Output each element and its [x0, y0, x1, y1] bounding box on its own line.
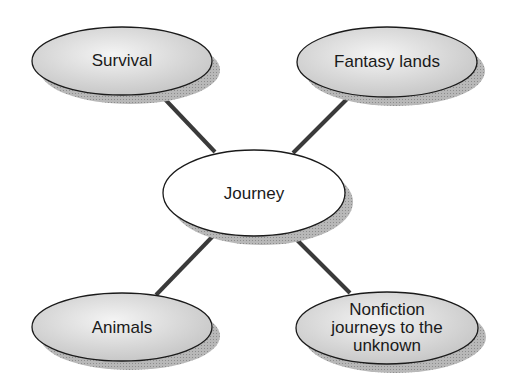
nonfiction-line-2: journeys to the [331, 319, 443, 337]
center-label-journey: Journey [224, 184, 284, 203]
node-label-fantasy-lands: Fantasy lands [334, 52, 440, 71]
nonfiction-line-3: unknown [331, 337, 443, 355]
node-label-nonfiction: Nonfiction journeys to the unknown [331, 301, 443, 355]
node-label-animals: Animals [92, 318, 152, 337]
connector-nonfiction [293, 236, 350, 293]
connector-fantasy-lands [293, 96, 350, 153]
node-label-survival: Survival [92, 51, 152, 70]
nonfiction-line-1: Nonfiction [331, 301, 443, 319]
connector-survival [160, 94, 215, 152]
connector-animals [156, 235, 214, 295]
